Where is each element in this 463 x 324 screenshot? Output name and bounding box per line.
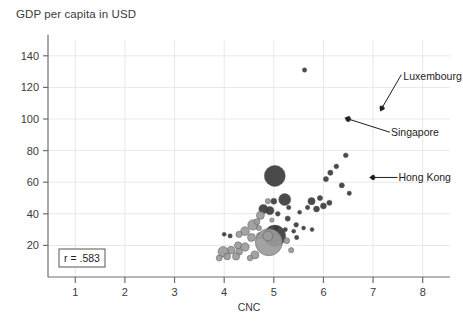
- x-tick-label: 7: [370, 286, 376, 298]
- data-point-bubble: [234, 242, 241, 249]
- axis-group: 2040608010012014012345678CNC: [21, 35, 450, 313]
- data-point-bubble: [270, 218, 274, 222]
- data-point-bubble: [320, 203, 326, 209]
- x-tick-label: 5: [271, 286, 277, 298]
- y-tick-label: 60: [27, 176, 39, 188]
- data-point-bubble: [247, 255, 253, 261]
- data-point-bubble: [285, 216, 290, 221]
- data-point-bubble: [317, 195, 322, 200]
- y-tick-label: 80: [27, 145, 39, 157]
- data-point-bubble: [302, 226, 306, 230]
- annotation-label: Luxembourg: [403, 70, 462, 82]
- gridlines-group: [48, 40, 450, 277]
- data-point-bubble: [292, 229, 296, 233]
- y-tick-label: 100: [21, 113, 39, 125]
- data-point-bubble: [308, 198, 315, 205]
- data-point-bubble: [228, 234, 232, 238]
- data-point-bubble: [334, 164, 339, 169]
- data-point-bubble: [236, 231, 242, 237]
- data-point-bubble: [302, 68, 306, 72]
- data-point-bubble: [256, 211, 264, 219]
- data-point-bubble: [339, 183, 344, 188]
- data-point-bubble: [247, 234, 255, 242]
- data-point-bubble: [328, 170, 333, 175]
- data-point-bubble: [264, 165, 285, 186]
- data-point-bubble: [343, 153, 348, 158]
- data-point-bubble: [232, 253, 239, 260]
- data-point-bubble: [275, 211, 280, 216]
- y-tick-label: 40: [27, 208, 39, 220]
- chart-canvas: GDP per capita in USD 204060801001201401…: [0, 0, 463, 324]
- annotation-arrow-line: [349, 119, 390, 132]
- data-point-bubble: [327, 200, 332, 205]
- data-point-bubble: [289, 248, 294, 253]
- data-point-bubble: [284, 238, 290, 244]
- data-point-bubble: [263, 231, 273, 241]
- annotation-arrowhead: [369, 174, 374, 180]
- annotation-arrow-line: [383, 75, 402, 107]
- data-point-bubble: [254, 219, 260, 225]
- annotation-label: Singapore: [391, 126, 439, 138]
- x-tick-label: 2: [122, 286, 128, 298]
- annotation-label: Hong Kong: [398, 171, 451, 183]
- data-points-group: [216, 68, 384, 261]
- data-point-bubble: [216, 255, 222, 261]
- x-tick-label: 6: [320, 286, 326, 298]
- x-tick-label: 4: [221, 286, 227, 298]
- data-point-bubble: [256, 225, 261, 230]
- data-point-bubble: [298, 210, 302, 214]
- scatter-plot: 2040608010012014012345678CNC LuxembourgS…: [0, 0, 463, 324]
- y-tick-label: 140: [21, 50, 39, 62]
- data-point-bubble: [287, 205, 291, 209]
- data-point-bubble: [294, 235, 298, 239]
- x-tick-label: 8: [420, 286, 426, 298]
- y-tick-label: 120: [21, 81, 39, 93]
- x-axis-title: CNC: [238, 301, 261, 313]
- data-point-bubble: [323, 176, 328, 181]
- x-tick-label: 3: [171, 286, 177, 298]
- data-point-bubble: [265, 199, 270, 204]
- data-point-bubble: [279, 194, 291, 206]
- y-tick-label: 20: [27, 239, 39, 251]
- correlation-value-label: r = .583: [64, 252, 100, 264]
- data-point-bubble: [313, 206, 319, 212]
- data-point-bubble: [266, 206, 274, 214]
- correlation-box: r = .583: [59, 249, 105, 267]
- data-point-bubble: [310, 228, 314, 232]
- data-point-bubble: [224, 253, 231, 260]
- data-point-bubble: [294, 222, 299, 227]
- data-point-bubble: [347, 191, 351, 195]
- x-tick-label: 1: [72, 286, 78, 298]
- data-point-bubble: [305, 205, 309, 209]
- data-point-bubble: [271, 198, 277, 204]
- data-point-bubble: [222, 232, 226, 236]
